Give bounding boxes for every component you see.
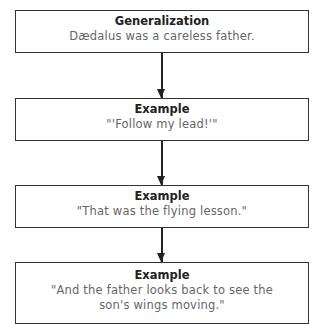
node-heading: Example <box>16 189 308 204</box>
example-box-3: Example "And the father looks back to se… <box>15 262 309 324</box>
node-text: Dædalus was a careless father. <box>16 29 308 44</box>
node-heading: Generalization <box>16 14 308 29</box>
arrow-down-icon <box>161 228 163 262</box>
node-text: "'Follow my lead!'" <box>16 117 308 132</box>
node-heading: Example <box>16 102 308 117</box>
arrow-down-icon <box>161 141 163 185</box>
node-heading: Example <box>16 268 308 283</box>
node-text: "And the father looks back to see the so… <box>16 283 308 313</box>
example-box-1: Example "'Follow my lead!'" <box>15 98 309 141</box>
generalization-box: Generalization Dædalus was a careless fa… <box>15 10 309 53</box>
node-text: "That was the flying lesson." <box>16 204 308 219</box>
example-box-2: Example "That was the flying lesson." <box>15 185 309 228</box>
arrow-down-icon <box>161 53 163 98</box>
